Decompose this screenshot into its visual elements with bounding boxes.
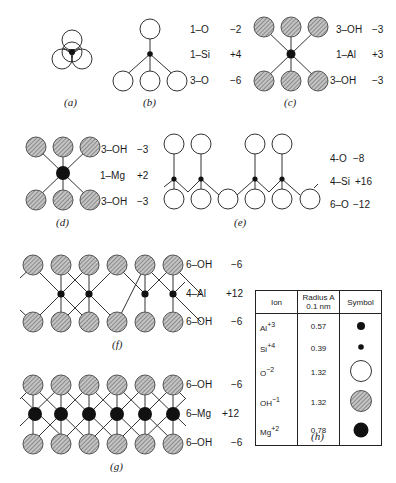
ion-cell: O−2 xyxy=(256,357,298,387)
symbol-cell xyxy=(340,357,382,387)
caption-a: (a) xyxy=(64,96,77,108)
label-e-row-3: 6–O−12 xyxy=(330,199,370,210)
caption-b: (b) xyxy=(143,96,156,108)
radius-cell: 0.78 xyxy=(298,417,340,445)
panel-e-silica-sheet xyxy=(164,134,320,209)
symbol-cell xyxy=(340,417,382,445)
table-row: Si+4 0.39 xyxy=(256,339,382,357)
table-row: OH−1 1.32 xyxy=(256,387,382,417)
radius-cell: 1.32 xyxy=(298,387,340,417)
symbol-cell xyxy=(340,339,382,357)
label-b-row-1: 1–O−2 xyxy=(190,24,241,35)
oh-ion-symbol-icon xyxy=(349,389,373,413)
o-ion-symbol-icon xyxy=(349,359,373,383)
panel-a-tetrahedron-top-view xyxy=(52,30,92,69)
label-d-row-1: 3–OH−3 xyxy=(101,144,148,155)
mg-ion-symbol-icon xyxy=(351,420,371,440)
caption-e: (e) xyxy=(234,216,246,228)
header-symbol: Symbol xyxy=(340,291,382,314)
label-g-row-3: 6–OH−6 xyxy=(186,437,242,448)
ion-cell: Al+3 xyxy=(256,314,298,340)
radius-cell: 0.57 xyxy=(298,314,340,340)
label-g-row-2: 6–Mg+12 xyxy=(186,408,239,419)
label-d-row-2: 1–Mg+2 xyxy=(100,170,148,181)
caption-f: (f) xyxy=(112,338,122,350)
table-row: Mg+2 0.78 xyxy=(256,417,382,445)
table-row: O−2 1.32 xyxy=(256,357,382,387)
panel-f-gibbsite-sheet xyxy=(20,255,201,332)
ion-cell: OH−1 xyxy=(256,387,298,417)
ion-cell: Si+4 xyxy=(256,339,298,357)
header-ion: Ion xyxy=(256,291,298,314)
label-d-row-3: 3–OH−3 xyxy=(101,196,148,207)
label-c-row-3: 3–OH−3 xyxy=(330,75,383,86)
header-radius: Radius A0.1 nm xyxy=(298,291,340,314)
label-c-row-2: 1–Al+3 xyxy=(336,49,383,60)
radius-cell: 0.39 xyxy=(298,339,340,357)
label-f-row-1: 6–OH−6 xyxy=(186,259,242,270)
label-e-row-1: 4-O−8 xyxy=(330,153,364,164)
si-ion-symbol-icon xyxy=(356,342,366,352)
label-b-row-3: 3–O−6 xyxy=(190,75,241,86)
panel-d-magnesia-octahedron xyxy=(26,137,100,210)
label-e-row-2: 4–Si+16 xyxy=(330,176,372,187)
label-f-row-2: 4–Al+12 xyxy=(186,288,243,299)
label-g-row-1: 6–OH−6 xyxy=(186,379,242,390)
label-f-row-3: 6–OH−6 xyxy=(186,316,242,327)
label-b-row-2: 1–Si+4 xyxy=(190,49,241,60)
ion-radius-table: Ion Radius A0.1 nm Symbol Al+3 0.57 Si+4… xyxy=(255,290,382,446)
panel-c-alumina-octahedron xyxy=(254,17,328,91)
table-row: Al+3 0.57 xyxy=(256,314,382,340)
radius-cell: 1.32 xyxy=(298,357,340,387)
symbol-cell xyxy=(340,387,382,417)
panel-g-brucite-sheet xyxy=(20,375,187,454)
caption-d: (d) xyxy=(56,216,69,228)
symbol-cell xyxy=(340,314,382,340)
caption-g: (g) xyxy=(110,460,123,472)
caption-c: (c) xyxy=(284,96,296,108)
panel-b-silica-tetrahedron xyxy=(113,19,187,91)
al-ion-symbol-icon xyxy=(355,320,367,332)
ion-cell: Mg+2 xyxy=(256,417,298,445)
label-c-row-1: 3–OH−3 xyxy=(336,24,383,35)
